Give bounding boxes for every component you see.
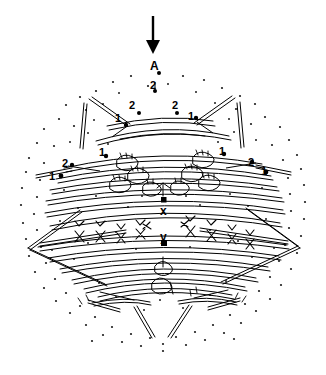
label-a: A — [150, 60, 159, 72]
label-leader-lines — [68, 82, 256, 171]
anatomical-line-drawing — [0, 0, 326, 375]
label-marker-dots — [59, 71, 269, 246]
label-right-1-upper: 1 — [188, 111, 194, 122]
label-left-1-middle: 1 — [99, 147, 105, 158]
label-left-1-upper: 1 — [115, 113, 121, 124]
label-right-1-outer: 1 — [261, 166, 267, 177]
label-left-2-lower: 2 — [62, 158, 68, 169]
label-right-1-middle: 1 — [219, 146, 225, 157]
label-right-2-lower: 2 — [248, 157, 254, 168]
label-y: y — [160, 231, 167, 243]
label-top-2: 2 — [150, 80, 156, 91]
figure-canvas: A 2 2 2 1 1 1 1 2 2 1 1 x y — [0, 0, 326, 375]
label-x: x — [160, 205, 167, 217]
pointer-arrow — [146, 16, 160, 54]
label-right-2-upper: 2 — [172, 100, 178, 111]
label-left-1-outer: 1 — [49, 171, 55, 182]
label-left-2-upper: 2 — [129, 100, 135, 111]
